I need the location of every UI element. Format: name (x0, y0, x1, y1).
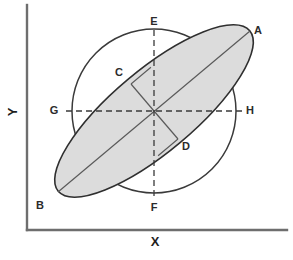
vertex-label-f: F (151, 201, 158, 213)
figure-canvas: ABCDEFGH X Y (0, 0, 293, 260)
y-axis-label: Y (5, 107, 20, 116)
vertex-label-h: H (246, 104, 254, 116)
vertex-label-c: C (115, 66, 123, 78)
diagram-svg: ABCDEFGH X Y (0, 0, 293, 260)
vertex-label-e: E (150, 15, 157, 27)
vertex-label-g: G (50, 104, 59, 116)
vertex-label-d: D (182, 140, 190, 152)
x-axis-label: X (151, 234, 160, 249)
vertex-label-a: A (254, 24, 262, 36)
vertex-label-b: B (36, 199, 44, 211)
